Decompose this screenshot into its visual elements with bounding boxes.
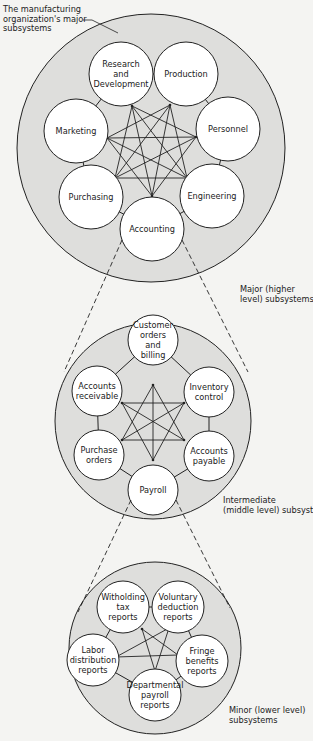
subsystem-label: Accounting [129,224,175,234]
subsystem-label: reports [108,612,137,622]
subsystem-label: Voluntary [158,592,197,602]
subsystem-fringe: Fringebenefitsreports [176,635,228,687]
minor-level-caption: subsystems [229,715,278,725]
subsystem-label: Customer [133,320,173,330]
subsystem-rnd: ResearchandDevelopment [89,42,153,106]
subsystem-personnel: Personnel [196,97,260,161]
connection-point [152,459,155,462]
subsystem-labor: Labordistributionreports [67,634,119,686]
subsystem-customer: Customerordersandbilling [128,315,178,365]
subsystem-marketing: Marketing [44,99,108,163]
subsystem-label: payroll [141,690,169,700]
connection-point [169,104,172,107]
subsystem-label: Production [164,69,208,79]
subsystem-label: control [195,392,223,402]
major-system: ResearchandDevelopmentProductionPersonne… [17,14,313,304]
subsystem-label: deduction [158,602,199,612]
subsystem-label: reports [78,665,107,675]
subsystem-label: Accounts [190,446,227,456]
subsystem-label: benefits [185,656,218,666]
subsystem-label: Departmental [127,680,184,690]
adjacent-connector [98,415,99,431]
subsystem-label: orders [86,455,112,465]
connection-point [131,105,134,108]
subsystem-voluntary: Voluntarydeductionreports [152,581,204,633]
subsystem-label: Fringe [189,646,214,656]
subsystem-label: distribution [70,655,117,665]
subsystem-label: and [145,340,160,350]
subsystem-label: Research [102,59,140,69]
subsystem-label: billing [141,350,166,360]
intermediate-system: CustomerordersandbillingInventorycontrol… [55,315,313,519]
subsystem-label: Purchasing [69,192,114,202]
title-annotation: subsystems [3,23,52,33]
subsystem-label: payable [193,456,226,466]
subsystem-label: Labor [81,645,105,655]
subsystem-label: receivable [76,391,118,401]
subsystem-receivable: Accountsreceivable [72,366,122,416]
connection-point [183,439,186,442]
subsystem-label: Accounts [78,381,115,391]
title-annotation: organization's major [3,14,87,24]
subsystem-production: Production [154,42,218,106]
subsystem-payroll: Payroll [128,465,178,515]
connection-point [121,402,124,405]
subsystem-label: Purchase [80,445,117,455]
subsystem-withholding: Witholdingtaxreports [97,581,149,633]
connection-point [152,384,155,387]
connection-point [141,628,144,631]
subsystem-label: reports [140,700,169,710]
subsystem-label: Marketing [56,126,97,136]
subsystem-inventory: Inventorycontrol [184,367,234,417]
subsystem-label: reports [163,612,192,622]
subsystem-label: Engineering [187,191,236,201]
subsystem-label: Inventory [189,382,228,392]
subsystem-payable: Accountspayable [184,431,234,481]
connection-point [121,439,124,442]
subsystem-engineering: Engineering [180,164,244,228]
subsystem-label: Witholding [101,592,145,602]
minor-level-caption: Minor (lower level) [229,705,305,715]
subsystem-label: Personnel [208,124,248,134]
subsystem-label: tax [116,602,129,612]
subsystem-purchase: Purchaseorders [74,430,124,480]
subsystem-hierarchy-diagram: ResearchandDevelopmentProductionPersonne… [0,0,313,741]
major-level-caption: level) subsystems [240,294,313,304]
subsystem-label: Payroll [139,485,166,495]
major-level-caption: Major (higher [240,284,295,294]
subsystem-label: reports [187,666,216,676]
subsystem-accounting: Accounting [120,197,184,261]
subsystem-label: Development [93,79,149,89]
intermediate-level-caption: (middle level) subsystems [223,505,313,515]
subsystem-purchasing: Purchasing [59,165,123,229]
minor-system: WitholdingtaxreportsVoluntarydeductionre… [67,562,305,734]
title-annotation: The manufacturing [2,4,81,14]
connection-point [183,402,186,405]
intermediate-level-caption: Intermediate [223,495,276,505]
subsystem-label: and [113,69,128,79]
subsystem-label: orders [140,330,166,340]
